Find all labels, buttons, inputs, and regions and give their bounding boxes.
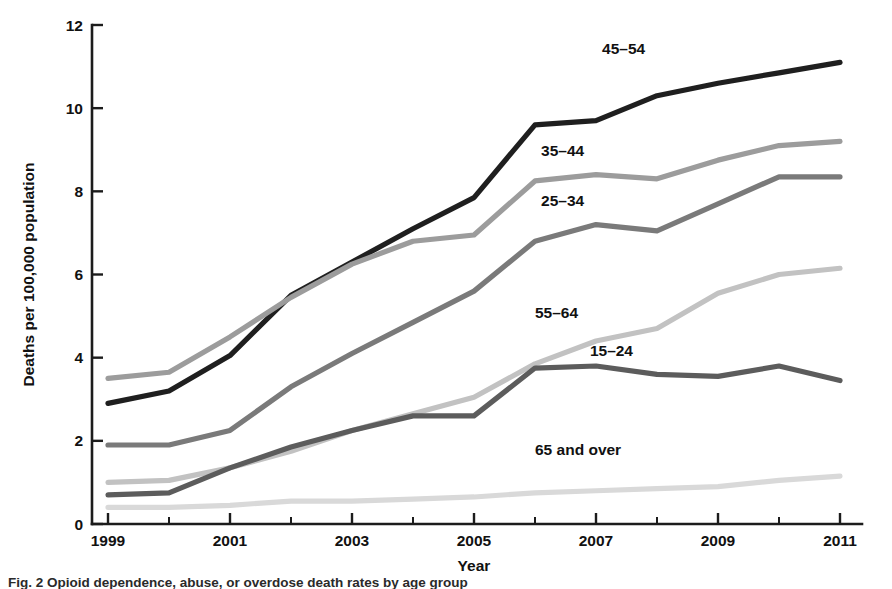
y-tick-label: 10 [66,100,83,117]
figure-caption: Fig. 2 Opioid dependence, abuse, or over… [8,575,888,589]
y-tick-label: 2 [74,432,83,449]
x-tick-label: 2009 [701,532,736,549]
x-tick-label: 2001 [213,532,248,549]
x-tick-label: 1999 [91,532,126,549]
y-tick-label: 12 [66,17,83,34]
series-line-25-34 [108,177,840,445]
x-axis-title: Year [458,557,491,574]
x-tick-label: 2007 [579,532,613,549]
y-tick-label: 0 [74,516,83,533]
series-label-45-54: 45–54 [602,40,645,57]
series-line-35-44 [108,141,840,378]
series-label-25-34: 25–34 [541,192,584,209]
x-tick-label: 2005 [457,532,492,549]
y-tick-label: 8 [74,183,83,200]
series-lines [108,62,840,507]
y-tick-label: 4 [74,349,83,366]
series-label-65 and over: 65 and over [535,441,621,458]
series-label-35-44: 35–44 [541,142,584,159]
y-axis-title: Deaths per 100,000 population [20,163,37,387]
series-line-65 and over [108,476,840,507]
series-label-15-24: 15–24 [590,342,633,359]
x-tick-label: 2011 [823,532,857,549]
series-labels: 45–5435–4425–3455–6415–2465 and over [535,40,646,458]
y-tick-label: 6 [74,266,83,283]
x-tick-label: 2003 [335,532,370,549]
series-label-55-64: 55–64 [535,304,578,321]
series-line-15-24 [108,366,840,495]
axes: 0246810121999200120032005200720092011 [66,17,862,550]
